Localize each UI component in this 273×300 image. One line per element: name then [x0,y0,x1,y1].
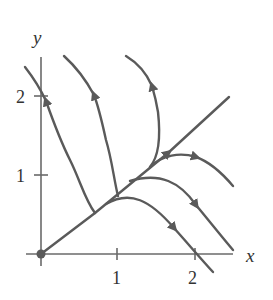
trajectory-right-3 [106,198,174,228]
x-axis-label: x [245,245,255,266]
trajectory-upper-3 [150,86,159,167]
trajectory-diagonal-tail [168,97,229,153]
trajectory-right-1-tail [196,157,233,186]
trajectory-upper-3-tail [126,56,152,86]
y-tick-label-2: 2 [16,87,25,107]
trajectory-upper-left-2 [94,95,118,196]
trajectory-upper-left-1 [46,101,95,213]
x-tick-label-2: 2 [188,268,197,288]
trajectory-right-3-tail [174,228,213,272]
trajectory-upper-left-2-tail [64,56,94,95]
y-tick-label-1: 1 [16,166,25,186]
trajectory-right-2-tail [196,205,233,250]
y-axis-label: y [31,27,42,48]
x-tick-label-1: 1 [112,268,121,288]
phase-portrait-figure: y x 1 2 1 2 [0,0,273,300]
axes [26,57,233,266]
trajectories [25,56,233,272]
equilibrium-dot [37,250,46,259]
